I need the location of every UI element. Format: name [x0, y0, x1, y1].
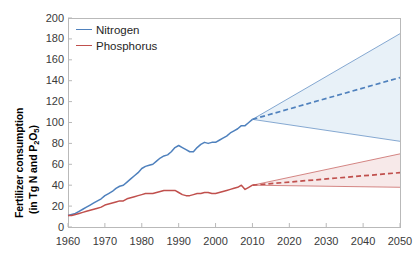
legend-line-swatch-phosphorus — [76, 45, 92, 46]
legend-item-phosphorus: Phosphorus — [76, 38, 157, 53]
legend: Nitrogen Phosphorus — [76, 22, 157, 54]
historical-line-phosphorus — [68, 185, 252, 215]
projection-band-nitrogen — [252, 34, 400, 142]
historical-line-nitrogen — [68, 119, 252, 215]
legend-label-phosphorus: Phosphorus — [96, 40, 157, 52]
legend-item-nitrogen: Nitrogen — [76, 22, 157, 37]
fertilizer-consumption-chart: Fertilizer consumption (in Tg N and P2O5… — [0, 0, 415, 254]
legend-line-swatch-nitrogen — [76, 29, 92, 30]
legend-label-nitrogen: Nitrogen — [96, 24, 139, 36]
plot-series-layer — [0, 0, 415, 254]
